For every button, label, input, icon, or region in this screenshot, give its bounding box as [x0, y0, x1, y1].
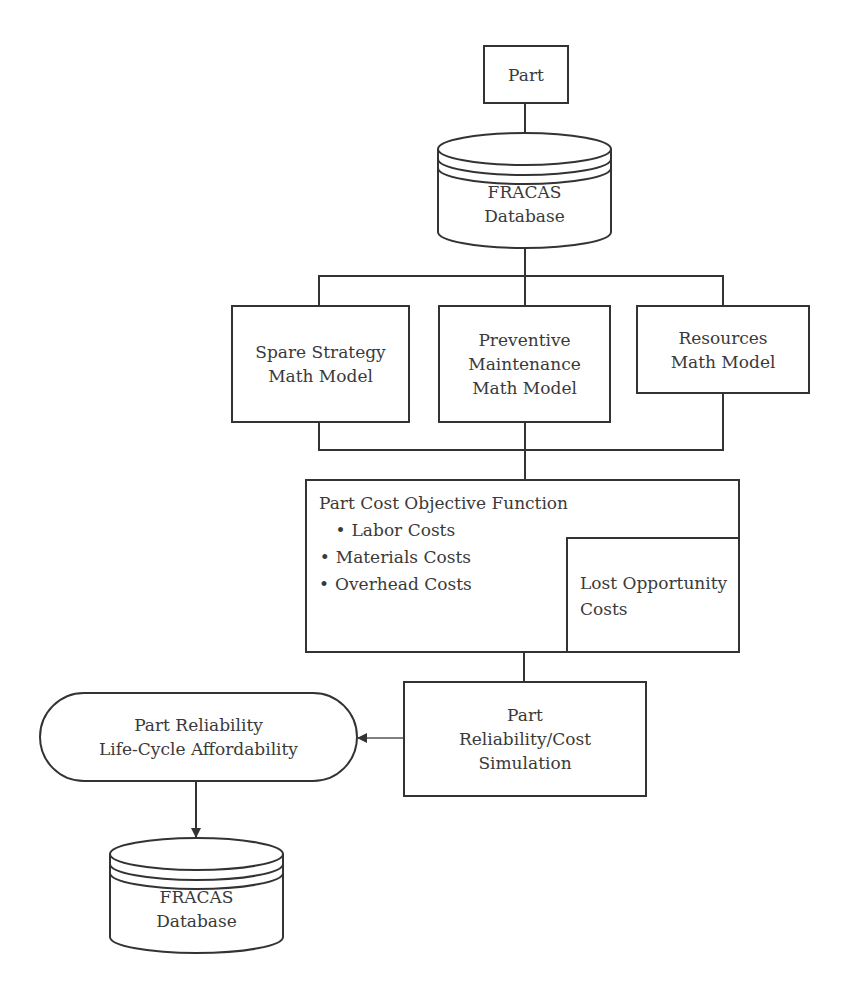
resources-line-2: Math Model — [671, 350, 776, 374]
life-cycle-affordability-terminator: Part Reliability Life-Cycle Affordabilit… — [40, 693, 357, 781]
fracas-bottom-label: FRACAS Database — [110, 885, 283, 933]
part-box: Part — [483, 45, 569, 104]
simulation-line-2: Reliability/Cost — [459, 727, 591, 751]
preventive-line-2: Maintenance — [468, 352, 580, 376]
spare-strategy-line-2: Math Model — [268, 364, 373, 388]
affordability-line-1: Part Reliability — [134, 713, 263, 737]
part-label: Part — [508, 63, 544, 87]
models-top-bracket — [319, 276, 723, 305]
preventive-line-3: Math Model — [472, 376, 577, 400]
cost-bullet-list: Labor Costs Materials Costs Overhead Cos… — [319, 517, 472, 598]
affordability-line-2: Life-Cycle Affordability — [99, 737, 298, 761]
resources-math-model-box: Resources Math Model — [636, 305, 810, 394]
preventive-line-1: Preventive — [478, 328, 570, 352]
objective-function-title: Part Cost Objective Function — [319, 491, 568, 515]
fracas-bottom-line-2: Database — [110, 909, 283, 933]
bullet-labor-costs: Labor Costs — [319, 517, 472, 544]
fracas-top-line-1: FRACAS — [438, 180, 611, 204]
simulation-line-3: Simulation — [478, 751, 571, 775]
preventive-maintenance-math-model-box: Preventive Maintenance Math Model — [438, 305, 611, 423]
fracas-bottom-line-1: FRACAS — [110, 885, 283, 909]
resources-line-1: Resources — [678, 326, 767, 350]
spare-strategy-line-1: Spare Strategy — [255, 340, 385, 364]
lost-opportunity-line-1: Lost Opportunity — [580, 570, 727, 596]
bullet-overhead-costs: Overhead Costs — [319, 571, 472, 598]
spare-strategy-math-model-box: Spare Strategy Math Model — [231, 305, 410, 423]
bullet-materials-costs: Materials Costs — [319, 544, 472, 571]
simulation-line-1: Part — [507, 703, 543, 727]
part-cost-objective-function-box: Part Cost Objective Function Labor Costs… — [305, 479, 740, 653]
fracas-top-line-2: Database — [438, 204, 611, 228]
lost-opportunity-line-2: Costs — [580, 596, 628, 622]
reliability-cost-simulation-box: Part Reliability/Cost Simulation — [403, 681, 647, 797]
lost-opportunity-costs-box: Lost Opportunity Costs — [566, 537, 740, 653]
fracas-top-label: FRACAS Database — [438, 180, 611, 228]
